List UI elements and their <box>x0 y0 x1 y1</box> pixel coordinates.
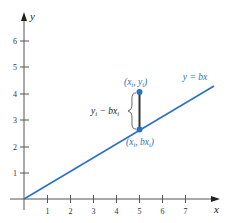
x-tick-label: 3 <box>92 207 96 216</box>
y-tick-label: 2 <box>13 143 17 152</box>
y-tick-label: 6 <box>13 37 17 46</box>
regression-line <box>24 86 214 199</box>
line-label: y = bx <box>182 72 208 82</box>
y-axis: y <box>21 10 35 210</box>
x-tick-label: 5 <box>138 207 142 216</box>
x-axis-arrow-icon <box>211 196 220 202</box>
y-axis-arrow-icon <box>21 12 27 21</box>
observed-point-label: (xi, yi) <box>124 77 147 88</box>
chart: y x 1 2 3 4 5 6 7 1 2 3 4 5 6 <box>0 0 229 223</box>
observed-point <box>137 89 143 95</box>
x-tick-labels: 1 2 3 4 5 6 7 <box>46 207 188 216</box>
x-tick-label: 4 <box>115 207 119 216</box>
x-tick-label: 6 <box>161 207 165 216</box>
fitted-point-label: (xi, bxi) <box>126 137 154 148</box>
residual-label: yi − bxi <box>90 106 119 117</box>
brace-icon <box>128 93 136 129</box>
x-tick-label: 1 <box>46 207 50 216</box>
fitted-point <box>137 127 143 133</box>
y-tick-label: 1 <box>13 169 17 178</box>
x-axis-label: x <box>213 203 219 215</box>
y-tick-label: 5 <box>13 63 17 72</box>
y-tick-label: 4 <box>13 90 17 99</box>
x-tick-label: 2 <box>69 207 73 216</box>
y-tick-label: 3 <box>13 116 17 125</box>
x-tick-label: 7 <box>184 207 188 216</box>
y-axis-label: y <box>29 10 35 22</box>
y-tick-labels: 1 2 3 4 5 6 <box>13 37 17 178</box>
